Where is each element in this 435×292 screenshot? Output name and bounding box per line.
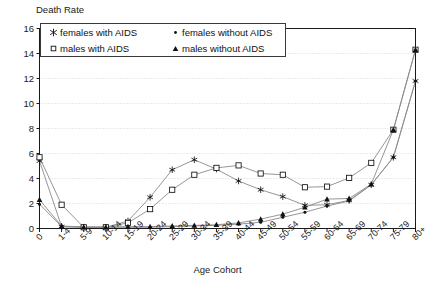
data-point-marker <box>37 197 43 202</box>
series-line <box>40 50 416 227</box>
data-point-marker <box>303 211 306 214</box>
legend-label: males without AIDS <box>182 43 264 54</box>
data-point-marker <box>392 156 395 159</box>
y-tick-label: 0 <box>8 223 34 234</box>
data-point-marker <box>369 160 374 165</box>
data-point-marker <box>326 205 329 208</box>
series-line <box>40 81 416 227</box>
legend-label: females with AIDS <box>60 27 137 38</box>
legend-entry-males-with-aids: males with AIDS <box>47 43 169 54</box>
y-tick-label: 10 <box>8 98 34 109</box>
y-tick-label: 8 <box>8 123 34 134</box>
y-tick-label: 2 <box>8 198 34 209</box>
data-point-marker <box>214 165 219 170</box>
square-marker-icon <box>47 44 60 53</box>
data-point-marker <box>192 172 197 177</box>
legend-entry-males-without-aids: males without AIDS <box>169 43 264 54</box>
y-tick-label: 16 <box>8 23 34 34</box>
dot-marker-icon <box>169 28 182 37</box>
data-point-marker <box>38 203 41 206</box>
legend-label: females without AIDS <box>182 27 272 38</box>
chart-legend: females with AIDS females without AIDS m <box>40 23 286 57</box>
data-point-marker <box>302 185 307 190</box>
data-point-marker <box>191 156 197 163</box>
legend-entry-females-without-aids: females without AIDS <box>169 27 272 38</box>
death-rate-line-chart: Death Rate 0246810121416 01-45-910-1415-… <box>0 0 435 292</box>
series-line <box>40 50 416 228</box>
data-point-marker <box>258 186 264 193</box>
data-point-marker <box>59 202 64 207</box>
data-point-marker <box>258 171 263 176</box>
star-marker-icon <box>47 28 60 37</box>
y-tick-label: 4 <box>8 173 34 184</box>
x-axis-title: Age Cohort <box>0 264 435 275</box>
data-point-marker <box>236 163 241 168</box>
data-point-marker <box>170 187 175 192</box>
y-tick-label: 14 <box>8 48 34 59</box>
data-point-marker <box>347 175 352 180</box>
data-point-marker <box>280 172 285 177</box>
data-point-marker <box>414 80 417 83</box>
data-point-marker <box>147 207 152 212</box>
legend-row-2: males with AIDS males without AIDS <box>41 40 285 57</box>
series-line <box>40 81 416 227</box>
legend-entry-females-with-aids: females with AIDS <box>47 27 169 38</box>
legend-row-1: females with AIDS females without AIDS <box>41 24 285 41</box>
y-tick-label: 12 <box>8 73 34 84</box>
legend-label: males with AIDS <box>60 43 129 54</box>
data-point-marker <box>280 193 286 200</box>
data-point-marker <box>324 184 329 189</box>
triangle-marker-icon <box>169 44 182 53</box>
plot-frame <box>40 29 416 229</box>
data-point-marker <box>37 155 42 160</box>
y-tick-label: 6 <box>8 148 34 159</box>
